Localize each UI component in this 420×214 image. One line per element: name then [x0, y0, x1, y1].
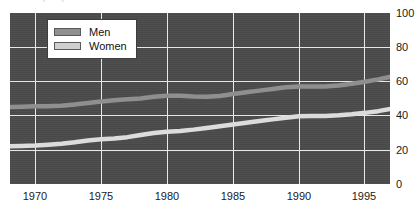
y-axis-tick-0: 0: [396, 179, 420, 190]
y-axis-tick-40: 40: [396, 110, 420, 121]
x-axis-tick-1990: 1990: [279, 190, 319, 202]
legend-label-men: Men: [89, 26, 110, 38]
x-axis-tick-1970: 1970: [15, 190, 55, 202]
chart-legend: Men Women: [47, 19, 137, 59]
y-axis-tick-80: 80: [396, 42, 420, 53]
legend-label-women: Women: [89, 40, 127, 52]
legend-item-women: Women: [54, 39, 127, 53]
series-line-men: [10, 77, 390, 107]
y-axis-tick-60: 60: [396, 76, 420, 87]
y-axis-tick-100: 100: [396, 8, 420, 19]
legend-item-men: Men: [54, 25, 127, 39]
x-axis-tick-1980: 1980: [147, 190, 187, 202]
x-axis-tick-1985: 1985: [213, 190, 253, 202]
chart-figure: Labour force participation rates 100 80 …: [0, 0, 420, 214]
caption-fragment: Labour force participation rates: [2, 0, 182, 2]
legend-swatch-icon-men: [54, 28, 81, 36]
x-axis-tick-1995: 1995: [344, 190, 384, 202]
x-axis-tick-1975: 1975: [81, 190, 121, 202]
legend-swatch-icon-women: [54, 42, 81, 50]
series-line-women: [10, 109, 390, 147]
y-axis-tick-20: 20: [396, 145, 420, 156]
